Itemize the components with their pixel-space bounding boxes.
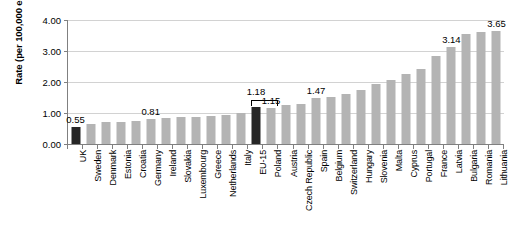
- bar-slot: [248, 20, 263, 144]
- bar: [432, 56, 441, 144]
- bar-slot: [399, 20, 414, 144]
- x-axis-label: Austria: [289, 150, 299, 177]
- x-axis-label: Malta: [394, 150, 404, 171]
- x-axis-label: Bulgaria: [469, 150, 479, 182]
- y-axis-tick-label: 1.00: [43, 108, 62, 119]
- x-axis-label: Ireland: [168, 150, 178, 176]
- y-axis-tick-label: 4.00: [43, 15, 62, 26]
- bar: [146, 119, 155, 144]
- x-axis-tick: [413, 145, 414, 149]
- bar-slot: [384, 20, 399, 144]
- y-axis-title: Rate (per 100,000 employees): [13, 0, 24, 94]
- bar: [281, 105, 290, 144]
- x-axis-label: Croatia: [138, 150, 148, 178]
- x-axis-label: Czech Republic: [304, 150, 314, 211]
- bar: [492, 31, 501, 144]
- x-axis-label: Denmark: [108, 150, 118, 185]
- bar: [161, 118, 170, 144]
- bar-slot: [278, 20, 293, 144]
- bar-slot: [414, 20, 429, 144]
- x-axis-label: Belgium: [334, 150, 344, 181]
- x-axis-label: Cyprus: [409, 150, 419, 178]
- bar-value-label: 0.81: [141, 106, 160, 117]
- x-axis-tick: [428, 145, 429, 149]
- bar: [327, 97, 336, 144]
- bar-slot: [489, 20, 504, 144]
- x-axis-label: Slovenia: [379, 150, 389, 183]
- bar-slot: [233, 20, 248, 144]
- bar-value-label: 0.55: [66, 114, 85, 125]
- bar-slot: [158, 20, 173, 144]
- x-axis-label: Germany: [153, 150, 163, 186]
- x-axis-tick: [187, 145, 188, 149]
- bar: [462, 34, 471, 144]
- x-axis-tick: [67, 145, 68, 149]
- bar: [206, 116, 215, 144]
- x-axis-tick: [217, 145, 218, 149]
- x-axis-tick: [323, 145, 324, 149]
- x-axis-tick: [458, 145, 459, 149]
- y-axis-tick-label: 2.00: [43, 77, 62, 88]
- x-axis-tick: [293, 145, 294, 149]
- bar: [477, 32, 486, 144]
- x-axis-tick: [383, 145, 384, 149]
- bar: [402, 74, 411, 144]
- bar: [236, 113, 245, 144]
- bar-value-label: 1.47: [307, 85, 326, 96]
- bar-slot: [474, 20, 489, 144]
- bar-slot: [459, 20, 474, 144]
- bar: [86, 124, 95, 144]
- bar: [71, 127, 80, 144]
- x-axis-tick: [503, 145, 504, 149]
- x-axis-tick: [473, 145, 474, 149]
- bar-value-label: 1.18: [247, 86, 266, 97]
- bar: [372, 84, 381, 144]
- x-axis-label: Netherlands: [228, 150, 238, 197]
- bar-slot: [83, 20, 98, 144]
- y-axis-tick-label: 0.00: [43, 139, 62, 150]
- bars-layer: [68, 20, 504, 144]
- bar: [342, 94, 351, 144]
- x-axis-label: Latvia: [454, 150, 464, 173]
- x-axis-label: Greece: [213, 150, 223, 179]
- bar: [191, 117, 200, 144]
- x-axis-tick: [82, 145, 83, 149]
- bar-slot: [324, 20, 339, 144]
- bar-value-label: 3.65: [487, 18, 506, 29]
- bar: [312, 98, 321, 144]
- bar-slot: [98, 20, 113, 144]
- x-axis-label: Romania: [484, 150, 494, 185]
- bar: [251, 107, 260, 144]
- bar: [417, 69, 426, 144]
- bar: [447, 47, 456, 144]
- x-axis-tick: [232, 145, 233, 149]
- x-axis-label: UK: [78, 150, 88, 162]
- x-axis-label: Poland: [273, 150, 283, 177]
- x-axis-tick: [338, 145, 339, 149]
- x-axis-label: Slovakia: [183, 150, 193, 183]
- x-axis-label: Sweden: [93, 150, 103, 182]
- bar: [116, 122, 125, 144]
- bar: [357, 90, 366, 144]
- x-axis-labels: UKSwedenDenmarkEstoniaCroatiaGermanyIrel…: [67, 150, 503, 245]
- bar: [176, 117, 185, 144]
- x-axis-label: Luxembourg: [198, 150, 208, 199]
- x-axis-tick: [277, 145, 278, 149]
- bar-slot: [68, 20, 83, 144]
- bar-slot: [309, 20, 324, 144]
- x-axis-label: Italy: [243, 150, 253, 166]
- bar-slot: [143, 20, 158, 144]
- x-axis-tick: [398, 145, 399, 149]
- x-axis-tick: [262, 145, 263, 149]
- x-axis-tick: [112, 145, 113, 149]
- bar: [101, 122, 110, 144]
- x-axis-label: Spain: [319, 150, 329, 172]
- x-axis-tick: [127, 145, 128, 149]
- x-axis-tick: [202, 145, 203, 149]
- bar: [297, 104, 306, 144]
- bar-slot: [113, 20, 128, 144]
- bar-slot: [203, 20, 218, 144]
- bar-slot: [339, 20, 354, 144]
- x-axis-tick: [368, 145, 369, 149]
- bar-slot: [369, 20, 384, 144]
